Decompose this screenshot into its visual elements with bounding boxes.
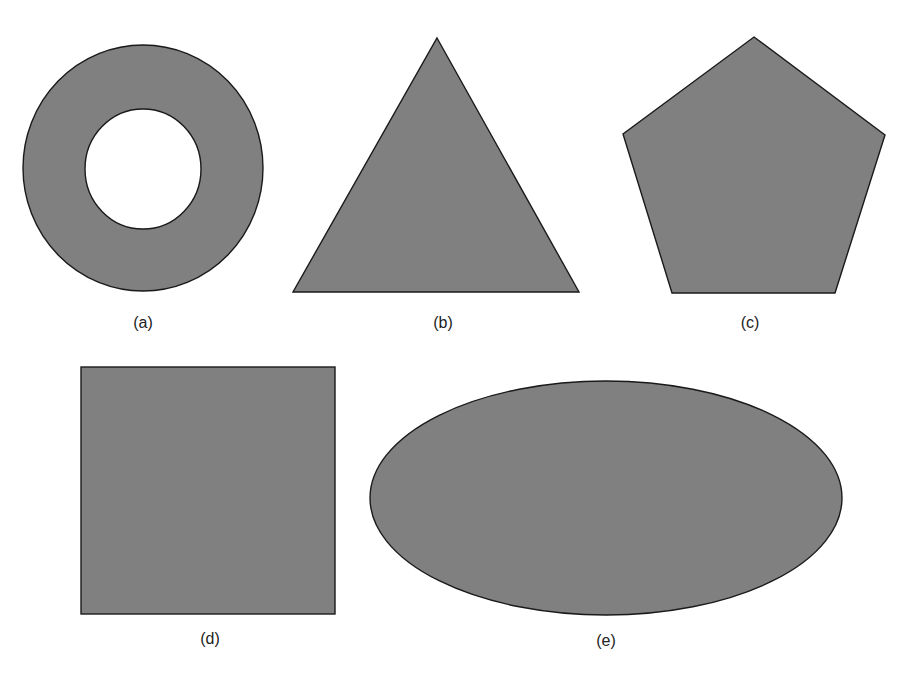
panel-a: (a)	[23, 45, 263, 331]
annulus-shape	[23, 45, 263, 291]
panel-a-label: (a)	[133, 314, 153, 331]
panel-e-label: (e)	[596, 632, 616, 649]
panel-d: (d)	[81, 367, 335, 647]
panel-e: (e)	[370, 381, 842, 649]
panel-c-label: (c)	[741, 314, 760, 331]
triangle-shape	[293, 38, 579, 292]
panel-b-label: (b)	[433, 314, 453, 331]
square-shape	[81, 367, 335, 614]
panel-c: (c)	[623, 37, 885, 331]
shapes-figure: (a) (b) (c) (d) (e)	[0, 0, 912, 677]
panel-b: (b)	[293, 38, 579, 331]
pentagon-shape	[623, 37, 885, 293]
panel-d-label: (d)	[200, 630, 220, 647]
ellipse-shape	[370, 381, 842, 615]
